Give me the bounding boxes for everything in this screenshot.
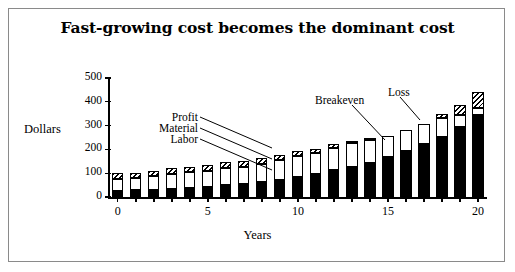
bar-year-10	[292, 78, 303, 197]
bar-segment-profit-year-13	[346, 141, 357, 144]
x-tick-18	[441, 197, 442, 202]
bar-year-7	[238, 78, 249, 197]
x-tick-10	[297, 197, 298, 202]
annotation-labor: Labor	[118, 133, 198, 145]
bar-segment-profit-year-6	[220, 162, 231, 168]
bar-segment-profit-year-4	[184, 167, 195, 172]
x-tick-3	[171, 197, 172, 202]
bar-segment-labor-year-3	[166, 189, 177, 197]
bar-segment-profit-year-1	[130, 173, 141, 178]
bar-segment-labor-year-8	[256, 182, 267, 197]
bar-segment-profit-year-20	[472, 92, 483, 107]
bar-segment-labor-year-18	[436, 137, 447, 197]
bar-segment-profit-year-5	[202, 165, 213, 171]
bar-segment-profit-year-12	[328, 144, 339, 148]
bar-segment-profit-year-18	[436, 114, 447, 118]
bar-segment-material-year-18	[436, 118, 447, 137]
bar-segment-profit-year-0	[112, 173, 123, 179]
bar-year-14	[364, 78, 375, 197]
bar-segment-material-year-0	[112, 179, 123, 191]
bar-segment-labor-year-15	[382, 157, 393, 197]
bar-segment-labor-year-7	[238, 184, 249, 197]
x-tick-20	[477, 197, 478, 202]
annotation-loss: Loss	[388, 86, 410, 98]
bar-segment-labor-year-14	[364, 163, 375, 197]
bar-segment-profit-year-11	[310, 149, 321, 153]
bar-segment-profit-year-2	[148, 171, 159, 176]
bar-segment-material-year-6	[220, 168, 231, 185]
x-tick-11	[315, 197, 316, 202]
bar-segment-labor-year-10	[292, 177, 303, 197]
bar-segment-profit-year-7	[238, 161, 249, 166]
x-tick-13	[351, 197, 352, 202]
bar-segment-material-year-8	[256, 164, 267, 182]
bar-segment-labor-year-6	[220, 185, 231, 197]
bar-segment-material-year-16	[400, 130, 411, 151]
bar-segment-labor-year-12	[328, 170, 339, 197]
bar-segment-material-year-1	[130, 178, 141, 191]
y-tick-400	[105, 101, 111, 102]
bar-year-20	[472, 78, 483, 197]
y-tick-500	[105, 77, 111, 78]
bar-year-17	[418, 78, 429, 197]
bar-segment-profit-year-10	[292, 151, 303, 155]
bar-segment-material-year-14	[364, 140, 375, 163]
x-tick-label-20: 20	[463, 204, 493, 219]
x-tick-4	[189, 197, 190, 202]
bar-year-18	[436, 78, 447, 197]
x-tick-6	[225, 197, 226, 202]
x-tick-label-10: 10	[283, 204, 313, 219]
bar-segment-material-year-13	[346, 143, 357, 166]
bar-year-19	[454, 78, 465, 197]
bar-segment-material-year-7	[238, 167, 249, 184]
bar-segment-material-year-4	[184, 172, 195, 188]
bar-year-9	[274, 78, 285, 197]
x-tick-8	[261, 197, 262, 202]
chart-figure: Fast-growing cost becomes the dominant c…	[0, 0, 515, 272]
bar-segment-labor-year-17	[418, 144, 429, 197]
bar-segment-labor-year-11	[310, 174, 321, 197]
x-tick-5	[207, 197, 208, 202]
x-axis-label: Years	[0, 228, 515, 243]
x-tick-9	[279, 197, 280, 202]
bar-segment-labor-year-19	[454, 127, 465, 197]
bar-segment-material-year-15	[382, 136, 393, 157]
x-tick-0	[117, 197, 118, 202]
y-tick-label-text: 300	[56, 119, 102, 130]
bar-segment-labor-year-5	[202, 187, 213, 197]
bar-segment-material-year-2	[148, 176, 159, 190]
x-tick-7	[243, 197, 244, 202]
bar-segment-labor-year-1	[130, 190, 141, 197]
bar-segment-material-year-5	[202, 171, 213, 187]
bar-segment-labor-year-4	[184, 188, 195, 197]
x-tick-label-5: 5	[193, 204, 223, 219]
y-tick-label-text: 200	[56, 142, 102, 153]
bar-year-6	[220, 78, 231, 197]
bar-segment-material-year-17	[418, 124, 429, 144]
x-tick-label-0: 0	[103, 204, 133, 219]
bar-segment-material-year-20	[472, 108, 483, 115]
bar-segment-labor-year-0	[112, 191, 123, 197]
x-tick-12	[333, 197, 334, 202]
bar-segment-profit-year-14	[364, 138, 375, 140]
bar-segment-material-year-12	[328, 148, 339, 170]
bar-segment-material-year-11	[310, 153, 321, 174]
x-tick-15	[387, 197, 388, 202]
bar-segment-profit-year-8	[256, 158, 267, 164]
bar-segment-material-year-3	[166, 174, 177, 189]
plot-area: Dollars Years 0100200300400500 05101520 …	[0, 0, 515, 272]
x-tick-16	[405, 197, 406, 202]
bar-segment-profit-year-9	[274, 155, 285, 160]
x-tick-1	[135, 197, 136, 202]
bar-year-8	[256, 78, 267, 197]
bar-segment-labor-year-13	[346, 167, 357, 197]
bar-segment-material-year-10	[292, 156, 303, 177]
y-tick-0	[105, 196, 111, 197]
bar-segment-labor-year-9	[274, 180, 285, 197]
bar-segment-labor-year-16	[400, 151, 411, 197]
bar-segment-material-year-19	[454, 115, 465, 126]
bar-year-5	[202, 78, 213, 197]
y-tick-label-text: 400	[56, 95, 102, 106]
y-tick-200	[105, 149, 111, 150]
bar-segment-labor-year-2	[148, 190, 159, 197]
